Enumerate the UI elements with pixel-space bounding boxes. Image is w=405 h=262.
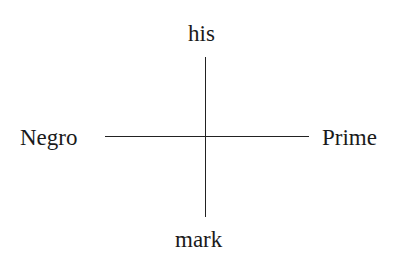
horizontal-axis-line bbox=[105, 136, 309, 137]
label-bottom: mark bbox=[175, 228, 222, 251]
label-top: his bbox=[188, 22, 215, 45]
label-left: Negro bbox=[20, 126, 77, 149]
label-right: Prime bbox=[322, 126, 377, 149]
